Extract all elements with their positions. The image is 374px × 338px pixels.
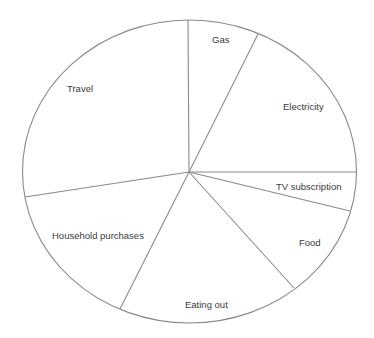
slice-label-food: Food [299,237,321,248]
slice-label-eating-out: Eating out [185,299,228,310]
slice-label-travel: Travel [67,83,93,94]
slice-label-electricity: Electricity [283,101,324,112]
slice-label-tv-subscription: TV subscription [276,181,341,192]
pie-chart: Gas Electricity TV subscription Food Eat… [0,0,374,338]
slice-label-household-purchases: Household purchases [52,230,144,241]
slice-label-gas: Gas [212,34,230,45]
